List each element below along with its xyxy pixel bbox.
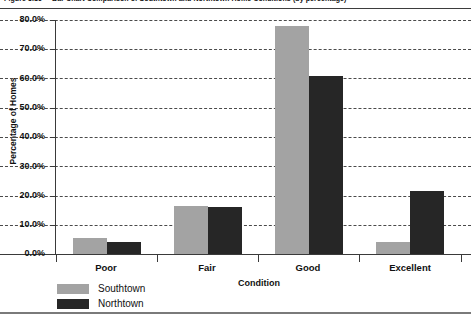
bar-southtown-good[interactable] [275, 26, 309, 254]
legend-item-southtown[interactable]: Southtown [57, 283, 217, 296]
legend-swatch-northtown [57, 299, 89, 309]
y-label-10: 10.0% [0, 220, 45, 229]
bar-southtown-poor[interactable] [73, 238, 107, 254]
bar-group-excellent [376, 20, 444, 254]
legend-label-northtown: Northtown [98, 298, 144, 310]
y-label-60: 60.0% [0, 74, 45, 83]
figure-title: Bar Chart Comparison of Southtown and No… [52, 0, 347, 2]
y-label-0: 0.0% [0, 249, 45, 258]
y-label-40: 40.0% [0, 132, 45, 141]
bar-southtown-fair[interactable] [174, 206, 208, 254]
y-label-70: 70.0% [0, 44, 45, 53]
bar-group-good [275, 20, 343, 254]
x-tick-3 [359, 254, 360, 262]
legend-item-northtown[interactable]: Northtown [57, 298, 217, 311]
header-divider [0, 8, 471, 9]
bar-chart: Percentage of Homes 80.0% 70.0% 60.0% 50… [0, 10, 471, 265]
footer-divider [0, 312, 471, 314]
legend-swatch-southtown [57, 284, 89, 294]
x-axis-line [0, 254, 471, 255]
figure-number: Figure 3.16 [4, 0, 42, 2]
chart-legend: Southtown Northtown [57, 283, 217, 313]
plot-area [56, 20, 462, 254]
bar-northtown-good[interactable] [309, 76, 343, 254]
bar-southtown-excellent[interactable] [376, 242, 410, 254]
x-tick-4 [461, 254, 462, 262]
figure-caption: Figure 3.16 Bar Chart Comparison of Sout… [0, 0, 471, 7]
bar-northtown-excellent[interactable] [410, 191, 444, 254]
y-label-30: 30.0% [0, 162, 45, 171]
y-label-20: 20.0% [0, 191, 45, 200]
x-tick-1 [157, 254, 158, 262]
legend-label-southtown: Southtown [98, 283, 145, 295]
x-tick-2 [258, 254, 259, 262]
bar-northtown-fair[interactable] [208, 207, 242, 254]
x-tick-0 [56, 254, 57, 262]
bar-group-poor [73, 20, 141, 254]
y-label-50: 50.0% [0, 103, 45, 112]
y-label-80: 80.0% [0, 15, 45, 24]
x-label-excellent: Excellent [350, 262, 470, 273]
bar-northtown-poor[interactable] [107, 242, 141, 254]
bar-group-fair [174, 20, 242, 254]
